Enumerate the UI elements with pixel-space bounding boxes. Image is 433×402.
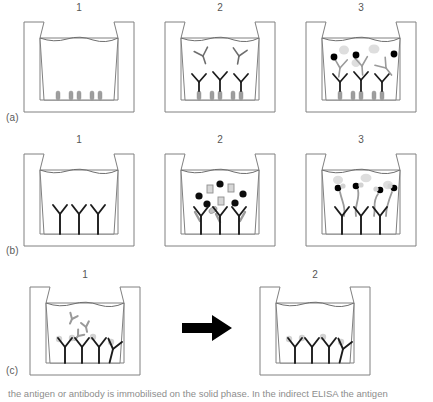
panel-a3: 3	[296, 0, 426, 120]
process-arrow-container	[178, 311, 238, 349]
well-a1	[14, 12, 144, 120]
figure-row-a: (a) 1 2	[0, 0, 433, 132]
panel-a2: 2	[155, 0, 285, 120]
figure-caption-clipped: the antigen or antibody is immobilised o…	[0, 389, 433, 402]
row-label-c: (c)	[6, 365, 18, 376]
figure-row-c: (c) 1	[0, 267, 433, 385]
well-c1	[20, 279, 150, 381]
well-a2	[155, 12, 285, 120]
figure-row-b: (b) 1	[0, 132, 433, 267]
well-b3	[296, 144, 426, 254]
well-b1	[14, 144, 144, 254]
panel-c1: 1	[20, 267, 150, 379]
elisa-figure: (a) 1 2	[0, 0, 433, 402]
process-arrow-icon	[178, 311, 238, 345]
panel-b2: 2	[155, 132, 285, 252]
panel-b1: 1	[14, 132, 144, 252]
panel-a1: 1	[14, 0, 144, 120]
well-c2	[250, 279, 380, 381]
figure-caption-text: the antigen or antibody is immobilised o…	[8, 389, 388, 399]
panel-c2: 2	[250, 267, 380, 379]
well-b2	[155, 144, 285, 254]
well-a3	[296, 12, 426, 120]
panel-b3: 3	[296, 132, 426, 252]
